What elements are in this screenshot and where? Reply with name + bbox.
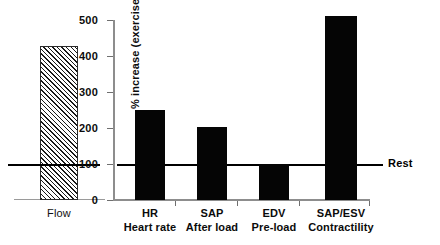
category-label-sap-esv: SAP/ESV Contractility bbox=[296, 207, 386, 234]
bar-sap bbox=[197, 127, 227, 200]
category-code-sap-esv: SAP/ESV bbox=[317, 207, 365, 219]
rest-reference-label: Rest bbox=[388, 157, 413, 169]
category-code-hr: HR bbox=[142, 207, 158, 219]
y-tick-0: 0 bbox=[107, 200, 113, 201]
y-tick-200: 200 bbox=[107, 128, 113, 129]
y-tick-label-300: 300 bbox=[79, 86, 98, 98]
exercise-response-bar-chart: Flow Rest % increase (exercise) 500 400 … bbox=[0, 0, 440, 245]
y-tick-label-200: 200 bbox=[79, 122, 98, 134]
x-tick-1 bbox=[175, 201, 176, 206]
category-name-sap-esv: Contractility bbox=[296, 221, 386, 235]
flow-bar-label: Flow bbox=[0, 207, 118, 219]
y-axis-line bbox=[113, 20, 115, 201]
y-tick-400: 400 bbox=[107, 56, 113, 57]
y-tick-500: 500 bbox=[107, 20, 113, 21]
bar-sap-esv bbox=[325, 16, 357, 200]
x-tick-2 bbox=[237, 201, 238, 206]
y-tick-label-100: 100 bbox=[79, 158, 98, 170]
plot-area: % increase (exercise) 500 400 300 200 10… bbox=[113, 0, 373, 245]
y-tick-300: 300 bbox=[107, 92, 113, 93]
bar-hr bbox=[135, 110, 165, 200]
category-code-edv: EDV bbox=[263, 207, 286, 219]
category-code-sap: SAP bbox=[201, 207, 224, 219]
y-tick-label-400: 400 bbox=[79, 50, 98, 62]
x-tick-3 bbox=[299, 201, 300, 206]
y-axis-title: % increase (exercise) bbox=[129, 0, 141, 122]
flow-bar bbox=[40, 46, 78, 200]
y-tick-label-500: 500 bbox=[79, 14, 98, 26]
x-tick-4 bbox=[369, 201, 370, 206]
y-tick-100: 100 bbox=[107, 164, 113, 165]
bar-edv bbox=[259, 164, 289, 200]
y-tick-label-0: 0 bbox=[92, 194, 98, 206]
